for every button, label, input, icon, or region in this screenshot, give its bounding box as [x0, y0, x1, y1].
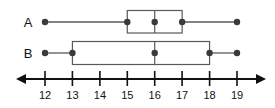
axis-arrow-right-icon [256, 74, 266, 84]
axis-tick-label-16: 16 [149, 89, 161, 101]
marker-dot-b-min [42, 50, 48, 56]
axis-arrow-left-icon [16, 74, 26, 84]
axis-tick-label-13: 13 [66, 89, 78, 101]
axis-tick-label-19: 19 [231, 89, 243, 101]
series-label-b: B [24, 46, 33, 61]
box-plot-figure: AB1213141516171819 [0, 0, 275, 108]
marker-dot-a-min [42, 19, 48, 25]
axis-tick-label-15: 15 [121, 89, 133, 101]
box-plot-canvas: AB1213141516171819 [0, 0, 275, 108]
box-b [72, 42, 209, 65]
axis-tick-label-14: 14 [94, 89, 106, 101]
marker-dot-b-q3 [206, 50, 212, 56]
marker-dot-b-median [152, 50, 158, 56]
marker-dot-b-q1 [69, 50, 75, 56]
marker-dot-a-max [234, 19, 240, 25]
marker-dot-a-median [152, 19, 158, 25]
axis-tick-label-18: 18 [203, 89, 215, 101]
axis-tick-label-17: 17 [176, 89, 188, 101]
series-label-a: A [24, 15, 33, 30]
marker-dot-a-q1 [124, 19, 130, 25]
axis-tick-label-12: 12 [39, 89, 51, 101]
marker-dot-a-q3 [179, 19, 185, 25]
marker-dot-b-max [234, 50, 240, 56]
